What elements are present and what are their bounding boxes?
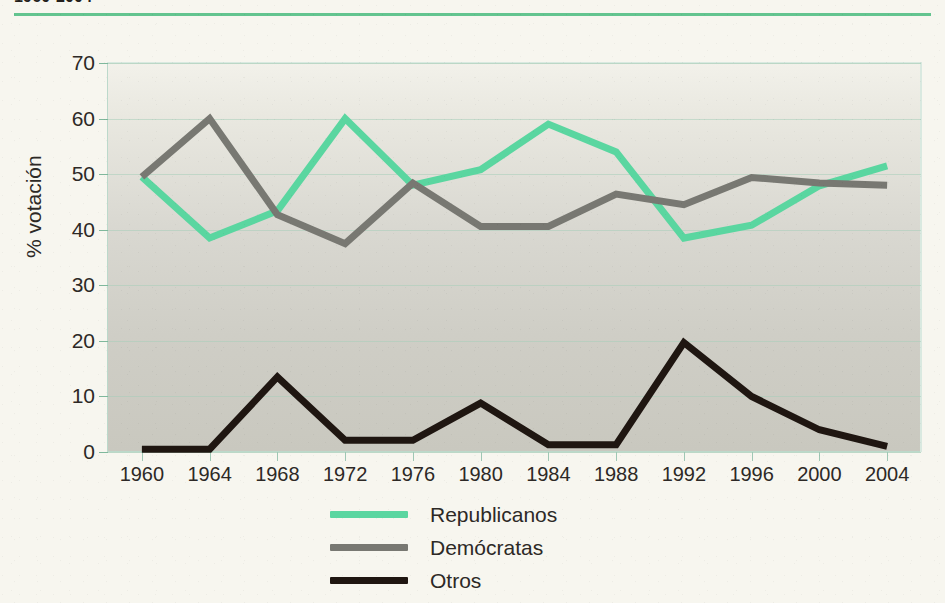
legend-label: Demócratas	[430, 536, 543, 560]
x-tick-1980	[481, 452, 482, 461]
legend-item: Republicanos	[330, 498, 750, 531]
x-tick-2004	[887, 452, 888, 461]
y-tick-20	[99, 341, 108, 342]
x-tick-1996	[752, 452, 753, 461]
legend-label: Otros	[430, 569, 481, 593]
y-tick-label-20: 20	[72, 329, 95, 353]
x-tick-label-1992: 1992	[662, 463, 707, 486]
y-tick-label-70: 70	[72, 51, 95, 75]
y-tick-40	[99, 230, 108, 231]
y-tick-60	[99, 119, 108, 120]
x-tick-1960	[142, 452, 143, 461]
gridline-0	[108, 452, 921, 453]
y-tick-label-30: 30	[72, 273, 95, 297]
x-tick-label-1988: 1988	[594, 463, 639, 486]
x-tick-label-1984: 1984	[526, 463, 571, 486]
y-tick-label-60: 60	[72, 107, 95, 131]
x-tick-label-1996: 1996	[729, 463, 774, 486]
x-tick-1984	[548, 452, 549, 461]
y-tick-50	[99, 174, 108, 175]
x-tick-1972	[345, 452, 346, 461]
x-tick-1976	[413, 452, 414, 461]
legend-item: Demócratas	[330, 531, 750, 564]
y-tick-label-10: 10	[72, 384, 95, 408]
y-tick-0	[99, 452, 108, 453]
x-tick-1964	[210, 452, 211, 461]
x-tick-1992	[684, 452, 685, 461]
page-title: 1960-2004	[14, 0, 92, 6]
y-tick-10	[99, 396, 108, 397]
legend-swatch-icon	[330, 511, 408, 518]
y-tick-30	[99, 285, 108, 286]
y-tick-70	[99, 63, 108, 64]
x-tick-label-1976: 1976	[391, 463, 436, 486]
legend-swatch-icon	[330, 544, 408, 551]
x-tick-label-1964: 1964	[187, 463, 232, 486]
legend-swatch-icon	[330, 577, 408, 584]
series-line-demócratas	[142, 119, 887, 244]
x-tick-label-1960: 1960	[120, 463, 165, 486]
chart-container: % votación 010203040506070 1960196419681…	[0, 26, 945, 603]
x-tick-label-2000: 2000	[797, 463, 842, 486]
plot-area: 010203040506070 196019641968197219761980…	[107, 63, 920, 452]
y-tick-label-0: 0	[83, 440, 95, 464]
x-tick-1988	[616, 452, 617, 461]
chart-legend: RepublicanosDemócratasOtros	[330, 498, 750, 597]
x-tick-2000	[819, 452, 820, 461]
page-header: 1960-2004	[0, 0, 945, 26]
x-tick-label-2004: 2004	[865, 463, 910, 486]
legend-label: Republicanos	[430, 503, 557, 527]
x-tick-label-1968: 1968	[255, 463, 300, 486]
series-line-otros	[142, 343, 887, 450]
x-tick-label-1972: 1972	[323, 463, 368, 486]
x-tick-1968	[277, 452, 278, 461]
y-tick-label-50: 50	[72, 162, 95, 186]
series-lines	[108, 63, 921, 452]
legend-item: Otros	[330, 564, 750, 597]
y-tick-label-40: 40	[72, 218, 95, 242]
header-divider	[14, 13, 931, 16]
x-tick-label-1980: 1980	[458, 463, 503, 486]
y-axis-title: % votación	[22, 155, 46, 258]
